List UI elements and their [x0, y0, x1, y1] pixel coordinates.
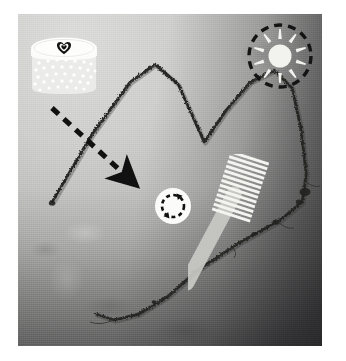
refresh-badge[interactable]	[149, 182, 197, 230]
sun-badge[interactable]	[244, 20, 316, 92]
photograph	[18, 14, 322, 346]
hair-brush[interactable]	[188, 154, 308, 314]
hair-mask-jar[interactable]	[26, 32, 102, 100]
arrow-down-right-icon	[52, 108, 124, 174]
screenshot-root	[0, 0, 346, 361]
sun-icon	[254, 29, 306, 83]
refresh-badge-disc	[155, 188, 191, 224]
dashed-arrow[interactable]	[40, 98, 150, 194]
